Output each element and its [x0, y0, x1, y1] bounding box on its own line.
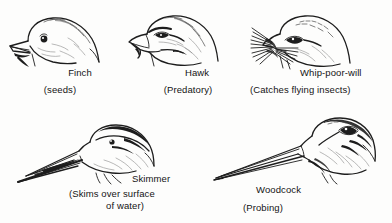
- label-whip-poor-will-common-name: Whip-poor-will: [300, 67, 362, 78]
- label-skimmer-function-line1: (Skims over surface: [69, 188, 155, 199]
- bird-illustration-whip-poor-will: [250, 8, 355, 70]
- label-woodcock-common-name: Woodcock: [256, 184, 301, 195]
- label-hawk-function: (Predatory): [157, 84, 219, 95]
- bird-illustration-finch: [8, 8, 108, 70]
- label-woodcock-function: (Probing): [243, 202, 283, 213]
- label-finch-function: (seeds): [35, 84, 85, 95]
- label-whip-poor-will-function: (Catches flying insects): [250, 84, 351, 95]
- label-skimmer-common-name: Skimmer: [132, 173, 170, 184]
- bird-beak-adaptations-figure: Finch (seeds): [0, 0, 392, 223]
- bird-illustration-woodcock: [212, 112, 377, 187]
- label-finch-common-name: Finch: [58, 67, 102, 78]
- label-hawk-common-name: Hawk: [175, 67, 219, 78]
- bird-illustration-hawk: [125, 8, 225, 70]
- label-skimmer-function-line2: of water): [95, 200, 155, 211]
